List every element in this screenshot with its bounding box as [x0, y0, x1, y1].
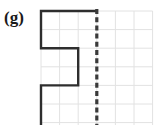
figure-canvas [0, 0, 162, 125]
step-shape-polyline [41, 11, 97, 125]
figure-panel: (g) [0, 0, 162, 125]
